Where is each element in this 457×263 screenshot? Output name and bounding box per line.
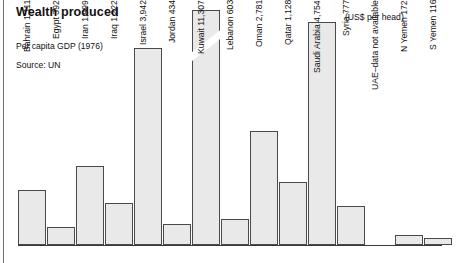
bar-iran[interactable] <box>76 166 104 245</box>
chart-root: Wealth produced Per capita GDP (1976) So… <box>0 0 457 263</box>
bar-bahrain[interactable] <box>18 190 46 245</box>
bar-syria[interactable] <box>337 206 365 245</box>
chart-baseline <box>18 245 442 246</box>
page-left-rule <box>3 0 4 263</box>
bar-label-n-yemen: N Yemen 172 <box>400 0 409 232</box>
bar-label-oman: Oman 2,781 <box>255 0 264 128</box>
bar-label-lebanon: Lebanon 603 <box>226 0 235 216</box>
bar-label-uae: UAE–data not available <box>371 0 380 241</box>
bar-label-bahrain: Bahrain 1,111 <box>23 0 32 187</box>
bar-oman[interactable] <box>250 131 278 245</box>
bar-n-yemen[interactable] <box>395 235 423 245</box>
bar-label-kuwait: Kuwait 11,307 <box>197 0 206 7</box>
bar-jordan[interactable] <box>163 224 191 245</box>
bar-chart-plot: Bahrain 1,111Egypt 392Iran 1,999Iraq 1,2… <box>18 0 442 246</box>
bar-label-saudi-arabia: Saudi Arabia 4,754 <box>313 0 322 19</box>
bar-label-israel: Israel 3,942 <box>139 0 148 45</box>
bar-label-s-yemen: S Yemen 116 <box>429 0 438 235</box>
bar-label-iran: Iran 1,999 <box>81 0 90 163</box>
bar-lebanon[interactable] <box>221 219 249 245</box>
bar-label-jordan: Jordan 434 <box>168 0 177 221</box>
bar-label-egypt: Egypt 392 <box>52 0 61 224</box>
bar-s-yemen[interactable] <box>424 238 452 245</box>
bar-egypt[interactable] <box>47 227 75 245</box>
bar-israel[interactable] <box>134 48 162 245</box>
bar-label-iraq: Iraq 1,222 <box>110 0 119 200</box>
bar-label-qatar: Qatar 1,128 <box>284 0 293 179</box>
bar-iraq[interactable] <box>105 203 133 245</box>
bar-label-syria: Syria 777 <box>342 0 351 203</box>
bar-qatar[interactable] <box>279 182 307 245</box>
